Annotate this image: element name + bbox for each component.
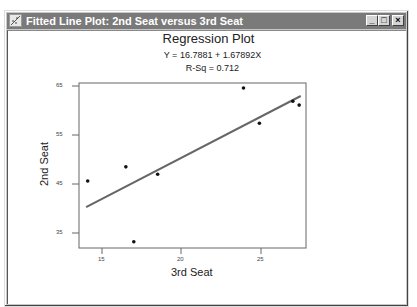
data-point (86, 179, 90, 183)
fitted-regression-line (86, 96, 301, 207)
x-ticks (102, 248, 261, 254)
data-point (242, 86, 246, 90)
plot-frame (79, 83, 306, 248)
data-point (297, 103, 301, 107)
y-ticks (72, 86, 79, 233)
data-point (132, 240, 136, 244)
data-point (156, 172, 160, 176)
data-point (124, 165, 128, 169)
regression-chart (0, 0, 417, 307)
chart-series (86, 86, 301, 243)
data-point (258, 121, 262, 125)
data-point (291, 99, 295, 103)
